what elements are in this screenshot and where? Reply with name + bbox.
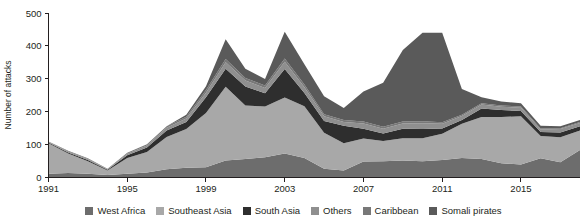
legend-item-label: Caribbean <box>375 206 419 216</box>
x-tick-label-5: 2011 <box>432 183 452 194</box>
y-tick-labels: 0100200300400500 <box>26 8 42 183</box>
y-tick-label-3: 300 <box>26 73 42 84</box>
legend-swatch-icon <box>363 207 371 215</box>
legend-item-3[interactable]: South Asia <box>243 206 300 216</box>
chart-legend: West AfricaSoutheast AsiaSouth AsiaOther… <box>0 200 587 221</box>
legend-item-label: West Africa <box>97 206 145 216</box>
y-axis-label: Number of attacks <box>3 61 13 130</box>
y-tick-label-4: 400 <box>26 40 42 51</box>
legend-swatch-icon <box>429 207 437 215</box>
x-tick-label-0: 1991 <box>38 183 59 194</box>
legend-swatch-icon <box>85 207 93 215</box>
legend-item-6[interactable]: Somali pirates <box>429 206 501 216</box>
x-tick-labels: 1991199519992003200720112015 <box>38 183 532 194</box>
legend-swatch-icon <box>156 207 164 215</box>
legend-item-label: Somali pirates <box>441 206 501 216</box>
legend-swatch-icon <box>311 207 319 215</box>
x-tick-label-2: 1999 <box>195 183 216 194</box>
legend-item-1[interactable]: West Africa <box>85 206 145 216</box>
y-tick-label-0: 0 <box>36 172 41 183</box>
stacked-area-chart: 0100200300400500 19911995199920032007201… <box>0 0 587 221</box>
y-tick-label-1: 100 <box>26 139 42 150</box>
legend-item-5[interactable]: Caribbean <box>363 206 419 216</box>
legend-item-2[interactable]: Southeast Asia <box>156 206 231 216</box>
x-tick-label-3: 2003 <box>274 183 295 194</box>
legend-item-label: South Asia <box>255 206 300 216</box>
y-tick-label-5: 500 <box>26 8 42 19</box>
legend-item-label: Others <box>323 206 352 216</box>
x-tick-label-1: 1995 <box>117 183 138 194</box>
area-series-group <box>49 32 581 177</box>
x-tick-label-6: 2015 <box>510 183 531 194</box>
legend-item-4[interactable]: Others <box>311 206 352 216</box>
x-tick-label-4: 2007 <box>353 183 374 194</box>
chart-canvas: 0100200300400500 19911995199920032007201… <box>0 0 587 221</box>
legend-item-label: Southeast Asia <box>168 206 231 216</box>
legend-swatch-icon <box>243 207 251 215</box>
y-tick-label-2: 200 <box>26 106 42 117</box>
